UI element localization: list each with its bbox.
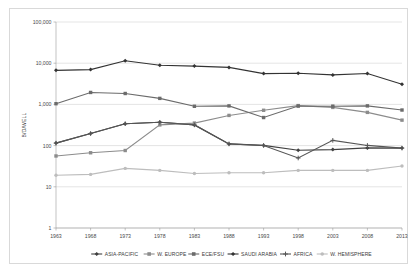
y-axis-label-text: B/D/WELL bbox=[21, 113, 27, 138]
data-point-marker bbox=[400, 146, 405, 151]
x-tick-label: 1968 bbox=[85, 233, 97, 239]
series-line bbox=[56, 122, 402, 158]
data-point-marker bbox=[366, 169, 369, 172]
legend-label: ASIA-PACIFIC bbox=[105, 251, 139, 257]
data-point-marker bbox=[54, 102, 57, 105]
data-point-marker bbox=[54, 68, 58, 72]
series-w-europe bbox=[54, 104, 403, 158]
chart-figure: 100,00010,0001,000100101 196319681973197… bbox=[0, 0, 417, 274]
data-point-marker bbox=[320, 252, 324, 256]
data-point-marker bbox=[366, 104, 369, 107]
data-point-marker bbox=[231, 252, 235, 256]
data-point-marker bbox=[227, 114, 230, 117]
x-tick-label: 1963 bbox=[50, 233, 62, 239]
data-point-marker bbox=[124, 149, 127, 152]
line-chart-svg: 100,00010,0001,000100101 196319681973197… bbox=[0, 0, 417, 274]
data-point-marker bbox=[400, 118, 403, 121]
legend-item-africa[interactable]: AFRICA bbox=[280, 251, 313, 257]
legend-item-asia-pacific[interactable]: ASIA-PACIFIC bbox=[91, 251, 138, 257]
data-point-marker bbox=[331, 73, 335, 77]
x-tick-label: 1983 bbox=[189, 233, 201, 239]
y-tick-label: 1 bbox=[49, 225, 52, 231]
data-point-marker bbox=[54, 141, 59, 146]
data-point-marker bbox=[227, 171, 230, 174]
legend-label: ECE/FSU bbox=[202, 251, 225, 257]
axes bbox=[54, 22, 403, 231]
y-tick-label: 100 bbox=[43, 143, 52, 149]
data-point-marker bbox=[296, 71, 300, 75]
data-point-marker bbox=[261, 143, 266, 148]
data-point-marker bbox=[124, 92, 127, 95]
data-point-marker bbox=[262, 109, 265, 112]
x-tick-label: 2003 bbox=[327, 233, 339, 239]
legend-label: AFRICA bbox=[294, 251, 313, 257]
series-asia-pacific bbox=[54, 120, 404, 152]
chart-legend: ASIA-PACIFICW. EUROPEECE/FSUSAUDI ARABIA… bbox=[91, 251, 372, 257]
data-point-marker bbox=[400, 108, 403, 111]
legend-item-w-europe[interactable]: W. EUROPE bbox=[144, 251, 187, 257]
data-point-marker bbox=[192, 64, 196, 68]
x-tick-label: 1998 bbox=[292, 233, 304, 239]
data-point-marker bbox=[262, 116, 265, 119]
series-w-hemisphere bbox=[54, 164, 403, 177]
data-point-marker bbox=[124, 167, 127, 170]
data-point-marker bbox=[297, 169, 300, 172]
legend-item-w-hemisphere[interactable]: W. HEMISPHERE bbox=[317, 251, 373, 257]
data-point-marker bbox=[297, 104, 300, 107]
y-tick-label: 1,000 bbox=[39, 101, 52, 107]
data-point-marker bbox=[331, 104, 334, 107]
data-point-marker bbox=[331, 148, 335, 152]
series-africa bbox=[54, 120, 405, 160]
data-point-marker bbox=[89, 68, 93, 72]
data-point-marker bbox=[89, 91, 92, 94]
data-point-marker bbox=[400, 164, 403, 167]
legend-label: W. HEMISPHERE bbox=[330, 251, 372, 257]
legend-item-ece-fsu[interactable]: ECE/FSU bbox=[188, 251, 224, 257]
data-point-marker bbox=[262, 171, 265, 174]
data-point-marker bbox=[365, 143, 370, 148]
data-point-marker bbox=[158, 169, 161, 172]
data-point-marker bbox=[147, 252, 151, 256]
data-point-marker bbox=[95, 252, 99, 256]
data-point-marker bbox=[193, 105, 196, 108]
data-point-marker bbox=[365, 72, 369, 76]
y-tick-label: 10 bbox=[46, 184, 52, 190]
data-point-marker bbox=[123, 121, 128, 126]
legend-label: W. EUROPE bbox=[157, 251, 187, 257]
gridlines bbox=[56, 22, 402, 228]
data-point-marker bbox=[158, 63, 162, 67]
data-point-marker bbox=[89, 151, 92, 154]
data-point-marker bbox=[296, 148, 300, 152]
legend-item-saudi-arabia[interactable]: SAUDI ARABIA bbox=[228, 251, 278, 257]
x-tick-label: 2008 bbox=[362, 233, 374, 239]
y-axis-title: B/D/WELL bbox=[21, 113, 27, 138]
y-tick-label: 10,000 bbox=[36, 60, 52, 66]
data-point-marker bbox=[192, 252, 196, 256]
data-point-marker bbox=[283, 252, 288, 257]
data-series-layer bbox=[54, 59, 405, 177]
data-point-marker bbox=[331, 138, 336, 143]
data-point-marker bbox=[89, 173, 92, 176]
series-saudi-arabia bbox=[54, 59, 404, 86]
x-tick-label: 2013 bbox=[396, 233, 408, 239]
data-point-marker bbox=[158, 97, 161, 100]
data-point-marker bbox=[400, 82, 404, 86]
data-point-marker bbox=[54, 154, 57, 157]
data-point-marker bbox=[331, 169, 334, 172]
chart-canvas: 100,00010,0001,000100101 196319681973197… bbox=[0, 0, 417, 274]
data-point-marker bbox=[193, 172, 196, 175]
data-point-marker bbox=[296, 156, 301, 161]
data-point-marker bbox=[262, 72, 266, 76]
x-tick-label: 1978 bbox=[154, 233, 166, 239]
legend-label: SAUDI ARABIA bbox=[241, 251, 277, 257]
series-line bbox=[56, 61, 402, 84]
data-point-marker bbox=[227, 65, 231, 69]
x-tick-label: 1988 bbox=[223, 233, 235, 239]
x-tick-label: 1993 bbox=[258, 233, 270, 239]
data-point-marker bbox=[123, 59, 127, 63]
x-axis-tick-labels: 1963196819731978198319881993199820032008… bbox=[50, 233, 408, 239]
data-point-marker bbox=[366, 111, 369, 114]
y-axis-tick-labels: 100,00010,0001,000100101 bbox=[33, 19, 52, 231]
data-point-marker bbox=[54, 174, 57, 177]
x-tick-label: 1973 bbox=[119, 233, 131, 239]
